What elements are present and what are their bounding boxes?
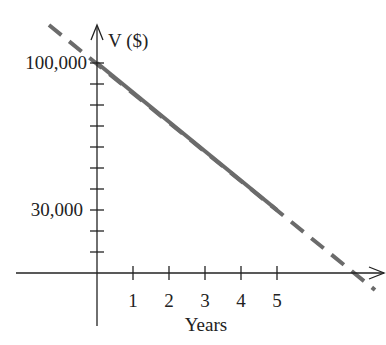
x-tick-label-2: 2 <box>164 290 174 311</box>
x-tick-label-4: 4 <box>236 290 246 311</box>
chart-svg: V ($) 100,000 30,000 1 2 3 4 5 Years <box>0 0 386 345</box>
depreciation-chart: V ($) 100,000 30,000 1 2 3 4 5 Years <box>0 0 386 345</box>
solid-value-line <box>97 63 277 210</box>
y-axis-label: V ($) <box>108 30 148 52</box>
x-axis-label: Years <box>185 314 227 335</box>
y-tick-label-30000: 30,000 <box>31 199 83 220</box>
x-tick-label-5: 5 <box>272 290 282 311</box>
x-tick-label-1: 1 <box>128 290 138 311</box>
x-tick-label-3: 3 <box>200 290 210 311</box>
y-tick-label-100000: 100,000 <box>25 52 87 73</box>
